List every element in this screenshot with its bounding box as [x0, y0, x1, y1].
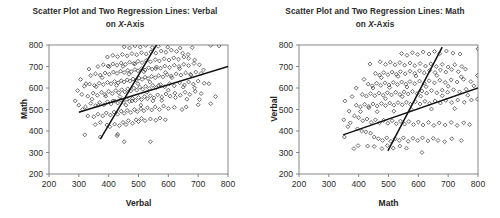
- svg-text:300: 300: [279, 148, 294, 158]
- svg-text:600: 600: [279, 83, 294, 93]
- svg-text:500: 500: [131, 179, 146, 189]
- svg-text:300: 300: [322, 179, 337, 189]
- panel-left-plot: 2003004005006007008002003004005006007008…: [0, 0, 250, 218]
- svg-text:800: 800: [221, 179, 236, 189]
- svg-text:700: 700: [279, 62, 294, 72]
- plot-frame: [299, 45, 478, 174]
- panel-right-plot: 2003004005006007008002003004005006007008…: [250, 0, 500, 218]
- svg-text:400: 400: [29, 126, 44, 136]
- panel-right: Scatter Plot and Two Regression Lines: M…: [250, 0, 500, 218]
- svg-text:500: 500: [279, 105, 294, 115]
- svg-text:400: 400: [101, 179, 116, 189]
- svg-text:600: 600: [161, 179, 176, 189]
- svg-text:700: 700: [191, 179, 206, 189]
- svg-text:300: 300: [72, 179, 87, 189]
- figure-two-panel-scatter: Scatter Plot and Two Regression Lines: V…: [0, 0, 500, 218]
- svg-text:700: 700: [29, 62, 44, 72]
- panel-left-y-axis-title: Math: [19, 89, 29, 129]
- svg-text:800: 800: [29, 40, 44, 50]
- panel-right-x-axis-title: Math: [299, 198, 478, 208]
- svg-text:500: 500: [29, 105, 44, 115]
- svg-text:200: 200: [279, 169, 294, 179]
- svg-text:600: 600: [411, 179, 426, 189]
- svg-text:700: 700: [441, 179, 456, 189]
- svg-text:800: 800: [471, 179, 486, 189]
- svg-text:600: 600: [29, 83, 44, 93]
- svg-text:200: 200: [29, 169, 44, 179]
- svg-text:500: 500: [381, 179, 396, 189]
- panel-left-x-axis-title: Verbal: [49, 198, 228, 208]
- svg-text:400: 400: [351, 179, 366, 189]
- panel-right-y-axis-title: Verbal: [269, 89, 279, 129]
- svg-text:200: 200: [292, 179, 307, 189]
- svg-text:300: 300: [29, 148, 44, 158]
- svg-text:200: 200: [42, 179, 57, 189]
- svg-text:400: 400: [279, 126, 294, 136]
- panel-left: Scatter Plot and Two Regression Lines: V…: [0, 0, 250, 218]
- svg-text:800: 800: [279, 40, 294, 50]
